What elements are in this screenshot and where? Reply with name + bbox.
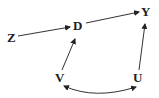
edge-v-to-d (62, 39, 75, 70)
edge-u-to-y (139, 24, 145, 70)
node-v: V (55, 70, 65, 85)
node-z: Z (7, 30, 16, 45)
node-u: U (133, 70, 143, 85)
edge-v-u-bidirected (64, 86, 136, 93)
edge-d-to-y (86, 12, 139, 23)
node-d: D (73, 18, 82, 33)
edge-z-to-d (18, 27, 70, 36)
node-y: Y (141, 4, 151, 19)
causal-diagram: Z D Y V U (0, 0, 159, 98)
